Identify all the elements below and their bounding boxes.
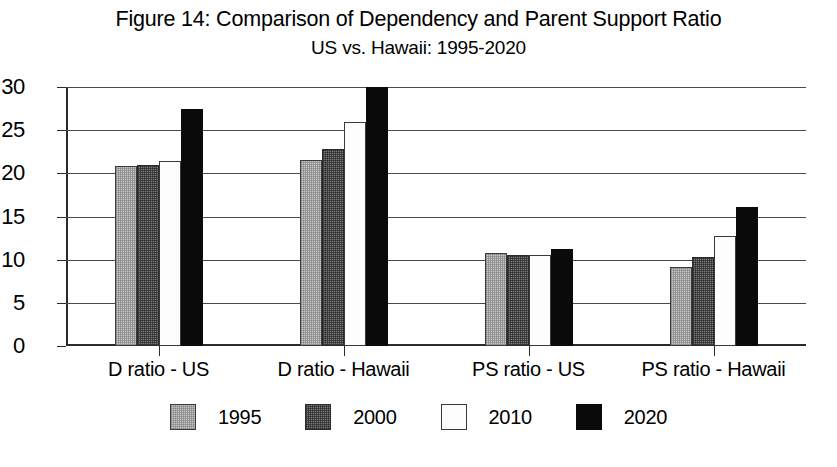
y-tick-label-20: 20 <box>0 162 25 184</box>
bar-2000 <box>137 165 159 346</box>
bar-1995 <box>670 267 692 346</box>
bar-group <box>621 87 806 346</box>
y-tick-mark-5 <box>57 303 66 304</box>
bar-2020 <box>366 87 388 346</box>
legend-swatch-2010 <box>441 404 467 430</box>
title-block: Figure 14: Comparison of Dependency and … <box>0 4 837 62</box>
legend-label-1995: 1995 <box>218 407 261 427</box>
legend-label-2000: 2000 <box>353 407 396 427</box>
y-tick-mark-10 <box>57 260 66 261</box>
bar-2000 <box>322 149 344 346</box>
x-tick-mark <box>344 346 345 356</box>
legend-item-2010: 2010 <box>441 404 532 430</box>
chart-legend: 1995200020102020 <box>0 404 837 430</box>
y-tick-label-30: 30 <box>0 76 25 98</box>
y-tick-label-15: 15 <box>0 206 25 228</box>
bar-2000 <box>507 255 529 347</box>
x-tick-mark <box>159 346 160 356</box>
y-tick-mark-30 <box>57 87 66 88</box>
bar-group <box>436 87 621 346</box>
legend-item-2020: 2020 <box>576 404 667 430</box>
plot-area: 051015202530 <box>66 87 806 346</box>
x-axis-label: PS ratio - US <box>436 357 621 381</box>
legend-swatch-2020 <box>576 404 602 430</box>
bar-set <box>436 87 621 346</box>
legend-label-2010: 2010 <box>489 407 532 427</box>
bar-2010 <box>344 122 366 346</box>
bar-2020 <box>736 207 758 346</box>
chart-title: Figure 14: Comparison of Dependency and … <box>0 4 837 34</box>
bar-set <box>621 87 806 346</box>
x-tick-mark <box>529 346 530 356</box>
bar-1995 <box>300 160 322 346</box>
y-tick-label-0: 0 <box>0 335 25 357</box>
x-axis-label: D ratio - Hawaii <box>251 357 436 381</box>
bar-1995 <box>485 253 507 346</box>
y-tick-mark-25 <box>57 130 66 131</box>
legend-label-2020: 2020 <box>624 407 667 427</box>
bar-set <box>66 87 251 346</box>
legend-swatch-1995 <box>170 404 196 430</box>
y-tick-label-10: 10 <box>0 249 25 271</box>
legend-item-2000: 2000 <box>305 404 396 430</box>
y-tick-mark-0 <box>57 346 66 347</box>
bar-2000 <box>692 257 714 346</box>
bar-2020 <box>181 109 203 346</box>
bar-1995 <box>115 166 137 346</box>
y-tick-mark-20 <box>57 173 66 174</box>
x-axis-label: D ratio - US <box>66 357 251 381</box>
chart-subtitle: US vs. Hawaii: 1995-2020 <box>0 34 837 62</box>
bar-2020 <box>551 249 573 346</box>
bar-2010 <box>529 255 551 347</box>
x-tick-mark <box>714 346 715 356</box>
bar-group <box>251 87 436 346</box>
figure-container: Figure 14: Comparison of Dependency and … <box>0 0 837 467</box>
y-tick-label-25: 25 <box>0 119 25 141</box>
bar-2010 <box>714 236 736 347</box>
bar-2010 <box>159 161 181 346</box>
legend-swatch-2000 <box>305 404 331 430</box>
bar-groups <box>66 87 806 346</box>
legend-item-1995: 1995 <box>170 404 261 430</box>
y-tick-label-5: 5 <box>0 292 25 314</box>
y-tick-mark-15 <box>57 217 66 218</box>
x-axis-label: PS ratio - Hawaii <box>621 357 806 381</box>
x-axis-labels: D ratio - USD ratio - HawaiiPS ratio - U… <box>66 357 806 381</box>
bar-group <box>66 87 251 346</box>
bar-set <box>251 87 436 346</box>
